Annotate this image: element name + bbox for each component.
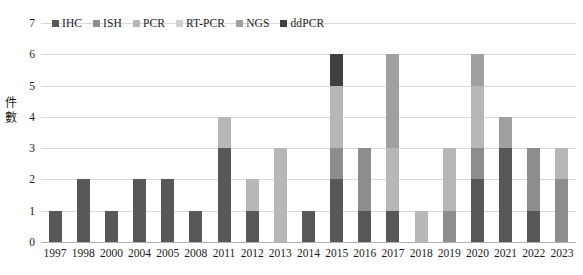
bar-segment-ihc[interactable] xyxy=(499,148,512,242)
bar-group[interactable] xyxy=(415,211,428,242)
bar-segment-ngs[interactable] xyxy=(471,54,484,85)
bar-group[interactable] xyxy=(443,148,456,242)
bar-group[interactable] xyxy=(161,179,174,242)
bar-group[interactable] xyxy=(302,211,315,242)
x-tick-label: 2022 xyxy=(522,246,545,260)
plot-area: 01234567 xyxy=(41,23,576,242)
legend-label: NGS xyxy=(246,17,269,29)
bar-segment-pcr[interactable] xyxy=(471,86,484,149)
x-tick-label: 2016 xyxy=(353,246,376,260)
gridline: 0 xyxy=(41,242,576,243)
x-tick-label: 2015 xyxy=(325,246,348,260)
bar-segment-ihc[interactable] xyxy=(189,211,202,242)
x-tick-label: 2013 xyxy=(269,246,292,260)
legend-item-ngs[interactable]: NGS xyxy=(236,17,269,29)
x-tick-label: 2005 xyxy=(156,246,179,260)
bar-segment-ish[interactable] xyxy=(555,179,568,242)
bar-segment-pcr[interactable] xyxy=(415,211,428,242)
y-tick-label: 4 xyxy=(29,111,35,123)
y-tick-label: 5 xyxy=(29,80,35,92)
bar-group[interactable] xyxy=(49,211,62,242)
x-tick-label: 2018 xyxy=(410,246,433,260)
bars-layer xyxy=(41,23,576,242)
bar-segment-ish[interactable] xyxy=(330,148,343,179)
bar-segment-ihc[interactable] xyxy=(161,179,174,242)
bar-segment-ihc[interactable] xyxy=(330,179,343,242)
bar-group[interactable] xyxy=(77,179,90,242)
bar-segment-ish[interactable] xyxy=(527,148,540,211)
legend-swatch-icon xyxy=(176,20,183,27)
legend-swatch-icon xyxy=(236,20,243,27)
legend-label: IHC xyxy=(62,17,82,29)
legend-label: ISH xyxy=(103,17,122,29)
stacked-bar-chart: IHCISHPCRRT-PCRNGSddPCR 件數 01234567 1997… xyxy=(0,0,583,275)
bar-segment-ihc[interactable] xyxy=(105,211,118,242)
bar-segment-pcr[interactable] xyxy=(330,86,343,149)
bar-segment-ihc[interactable] xyxy=(246,211,259,242)
x-tick-label: 2020 xyxy=(466,246,489,260)
y-axis-title-char: 件 xyxy=(3,96,19,111)
bar-group[interactable] xyxy=(133,179,146,242)
bar-segment-ddpcr[interactable] xyxy=(330,54,343,85)
x-tick-label: 2000 xyxy=(100,246,123,260)
bar-segment-ihc[interactable] xyxy=(358,211,371,242)
bar-segment-pcr[interactable] xyxy=(386,148,399,211)
bar-segment-ihc[interactable] xyxy=(302,211,315,242)
bar-segment-ihc[interactable] xyxy=(386,211,399,242)
chart-legend: IHCISHPCRRT-PCRNGSddPCR xyxy=(52,15,324,31)
bar-segment-ngs[interactable] xyxy=(386,54,399,148)
x-axis-labels: 1997199820002004200520082011201220132014… xyxy=(41,246,576,264)
legend-item-rt-pcr[interactable]: RT-PCR xyxy=(176,17,225,29)
x-tick-label: 2023 xyxy=(550,246,573,260)
legend-item-ihc[interactable]: IHC xyxy=(52,17,82,29)
bar-group[interactable] xyxy=(527,148,540,242)
bar-group[interactable] xyxy=(555,148,568,242)
bar-segment-pcr[interactable] xyxy=(218,117,231,148)
legend-item-ddpcr[interactable]: ddPCR xyxy=(280,17,324,29)
bar-segment-pcr[interactable] xyxy=(246,179,259,210)
x-tick-label: 2021 xyxy=(494,246,517,260)
bar-group[interactable] xyxy=(189,211,202,242)
bar-segment-ish[interactable] xyxy=(471,148,484,179)
bar-segment-ihc[interactable] xyxy=(49,211,62,242)
bar-group[interactable] xyxy=(499,117,512,242)
bar-segment-ihc[interactable] xyxy=(527,211,540,242)
bar-group[interactable] xyxy=(358,148,371,242)
bar-segment-ish[interactable] xyxy=(443,211,456,242)
bar-group[interactable] xyxy=(386,54,399,242)
legend-item-pcr[interactable]: PCR xyxy=(133,17,165,29)
bar-group[interactable] xyxy=(471,54,484,242)
legend-label: RT-PCR xyxy=(186,17,225,29)
bar-group[interactable] xyxy=(246,179,259,242)
x-tick-label: 2004 xyxy=(128,246,151,260)
bar-segment-pcr[interactable] xyxy=(274,148,287,242)
bar-segment-pcr[interactable] xyxy=(443,148,456,211)
bar-segment-ihc[interactable] xyxy=(77,179,90,242)
y-axis-title: 件數 xyxy=(3,96,19,126)
bar-segment-pcr[interactable] xyxy=(555,148,568,179)
legend-swatch-icon xyxy=(93,20,100,27)
bar-segment-ngs[interactable] xyxy=(499,117,512,148)
bar-group[interactable] xyxy=(274,148,287,242)
bar-segment-ish[interactable] xyxy=(358,148,371,211)
y-tick-label: 0 xyxy=(29,236,35,248)
legend-swatch-icon xyxy=(52,20,59,27)
bar-segment-ihc[interactable] xyxy=(218,148,231,242)
x-tick-label: 2008 xyxy=(184,246,207,260)
bar-segment-ihc[interactable] xyxy=(133,179,146,242)
bar-group[interactable] xyxy=(218,117,231,242)
legend-label: ddPCR xyxy=(290,17,324,29)
legend-item-ish[interactable]: ISH xyxy=(93,17,122,29)
x-tick-label: 1997 xyxy=(44,246,67,260)
legend-swatch-icon xyxy=(280,20,287,27)
y-axis-title-char: 數 xyxy=(3,111,19,126)
bar-segment-ihc[interactable] xyxy=(471,179,484,242)
x-tick-label: 2012 xyxy=(241,246,264,260)
bar-group[interactable] xyxy=(330,54,343,242)
y-tick-label: 2 xyxy=(29,173,35,185)
x-tick-label: 2011 xyxy=(213,246,236,260)
x-tick-label: 2014 xyxy=(297,246,320,260)
y-tick-label: 6 xyxy=(29,48,35,60)
legend-swatch-icon xyxy=(133,20,140,27)
bar-group[interactable] xyxy=(105,211,118,242)
